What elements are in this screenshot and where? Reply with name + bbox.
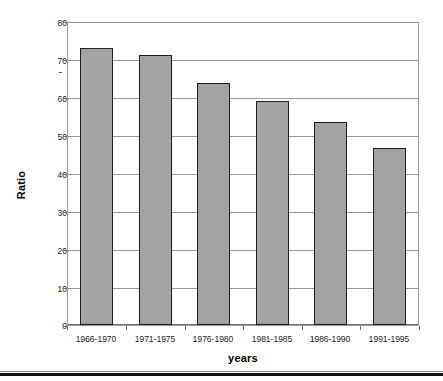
x-tick-mark-2 bbox=[185, 326, 186, 330]
bars-layer bbox=[67, 22, 419, 326]
y-tick-label-80: 80 bbox=[37, 19, 67, 28]
y-tick-label-10: 10 bbox=[37, 285, 67, 294]
y-tick-label-50: 50 bbox=[37, 133, 67, 142]
y-tick-label-70: 70 bbox=[37, 57, 67, 66]
x-tick-label-1991-1995: 1991-1995 bbox=[349, 334, 429, 344]
bar-1971-1975[interactable] bbox=[139, 55, 172, 325]
x-axis-title: years bbox=[67, 352, 419, 364]
y-tick-label-60: 60 bbox=[37, 95, 67, 104]
bar-1976-1980[interactable] bbox=[197, 83, 230, 325]
bar-1986-1990[interactable] bbox=[314, 122, 347, 325]
page-separator-rule bbox=[0, 373, 443, 376]
x-tick-mark-3 bbox=[243, 326, 244, 330]
y-tick-label-20: 20 bbox=[37, 247, 67, 256]
bar-chart-figure: Ratio 80 70 60 50 40 30 20 10 0 bbox=[0, 0, 443, 381]
y-tick-label-30: 30 bbox=[37, 209, 67, 218]
y-tick-label-40: 40 bbox=[37, 171, 67, 180]
bar-1991-1995[interactable] bbox=[373, 148, 406, 325]
x-tick-mark-5 bbox=[360, 326, 361, 330]
x-tick-mark-1 bbox=[126, 326, 127, 330]
x-tick-mark-6 bbox=[419, 326, 420, 330]
x-tick-mark-0 bbox=[67, 326, 68, 330]
y-axis-minor-mark bbox=[59, 72, 62, 73]
x-tick-mark-4 bbox=[302, 326, 303, 330]
y-axis-title: Ratio bbox=[14, 150, 28, 220]
page-separator-hairline bbox=[0, 371, 443, 372]
bar-1981-1985[interactable] bbox=[256, 101, 289, 325]
bar-1966-1970[interactable] bbox=[80, 48, 113, 326]
